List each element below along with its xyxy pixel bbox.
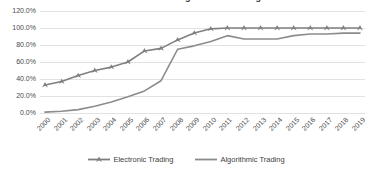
- legend-swatch-icon: [195, 155, 217, 164]
- y-axis-tick-label: 40.0%: [16, 75, 36, 83]
- legend-item-electronic-trading[interactable]: Electronic Trading: [88, 155, 173, 164]
- x-axis-tick-label: 2000: [36, 116, 53, 133]
- legend-item-algorithmic-trading[interactable]: Algorithmic Trading: [195, 155, 284, 164]
- plot-area: [40, 11, 365, 113]
- x-axis-tick-label: 2012: [235, 116, 252, 133]
- x-axis-tick-label: 2019: [351, 116, 368, 133]
- x-axis-tick-label: 2018: [334, 116, 351, 133]
- gridline: [40, 113, 365, 114]
- x-axis-tick-label: 2008: [168, 116, 185, 133]
- x-axis-tick-label: 2015: [284, 116, 301, 133]
- y-axis-tick-label: 60.0%: [16, 58, 36, 66]
- y-axis-tick-label: 20.0%: [16, 92, 36, 100]
- y-axis-tick-label: 120.0%: [12, 7, 36, 15]
- series-line: [45, 28, 360, 85]
- x-axis-tick-label: 2003: [85, 116, 102, 133]
- x-axis-tick-label: 2013: [251, 116, 268, 133]
- x-axis-tick-label: 2006: [135, 116, 152, 133]
- x-axis-tick-label: 2010: [201, 116, 218, 133]
- x-axis-tick-label: 2002: [69, 116, 86, 133]
- y-axis-tick-label: 80.0%: [16, 41, 36, 49]
- x-axis-labels: 2000200120022003200420052006200720082009…: [40, 116, 365, 152]
- x-axis-tick-label: 2007: [152, 116, 169, 133]
- series-lines: [40, 11, 365, 113]
- legend-label: Algorithmic Trading: [220, 155, 284, 164]
- x-axis-tick-label: 2014: [268, 116, 285, 133]
- x-axis-tick-label: 2004: [102, 116, 119, 133]
- chart-legend: Electronic TradingAlgorithmic Trading: [0, 152, 373, 166]
- legend-label: Electronic Trading: [113, 155, 173, 164]
- chart-title: Electronic and Algorithmic Trading: [0, 0, 373, 2]
- y-axis-tick-label: 0.0%: [20, 109, 36, 117]
- x-axis-tick-label: 2001: [52, 116, 69, 133]
- x-axis-tick-label: 2016: [301, 116, 318, 133]
- x-axis-tick-label: 2009: [185, 116, 202, 133]
- x-axis-tick-label: 2017: [317, 116, 334, 133]
- x-axis-tick-label: 2005: [118, 116, 135, 133]
- chart-container: Electronic and Algorithmic Trading 120.0…: [0, 0, 373, 170]
- y-axis-tick-label: 100.0%: [12, 24, 36, 32]
- x-axis-tick-label: 2011: [218, 116, 234, 132]
- y-axis-labels: 120.0%100.0%80.0%60.0%40.0%20.0%0.0%: [0, 0, 38, 170]
- legend-swatch-icon: [88, 155, 110, 164]
